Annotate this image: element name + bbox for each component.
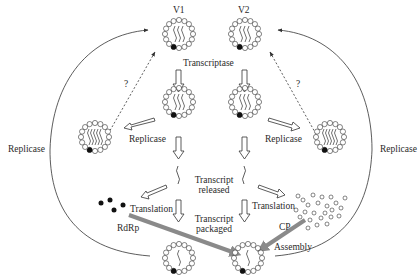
translation-label-left: Translation <box>130 204 173 214</box>
virion-v1-label: V1 <box>173 5 185 15</box>
assembly-label: Assembly <box>274 242 312 252</box>
transcriptase-label: Transcriptase <box>183 58 234 68</box>
question-label-right: ? <box>296 79 300 89</box>
replicase-label-left-outer: Replicase <box>8 144 45 154</box>
released-transcript-right <box>243 166 246 184</box>
virus-lifecycle-diagram <box>0 0 418 278</box>
cp-subunits <box>294 193 347 230</box>
virion-v1 <box>162 17 195 50</box>
question-label-left: ? <box>124 79 128 89</box>
virion-v2-transcribing <box>228 85 261 118</box>
virion-assembled-bottom <box>231 241 264 274</box>
virion-right-replicating <box>313 120 346 153</box>
virion-v1-transcribing <box>162 85 195 118</box>
rdrp-label: RdRp <box>117 223 139 233</box>
replicase-label-left-inner: Replicase <box>129 134 166 144</box>
translation-label-right: Translation <box>252 201 295 211</box>
transcript-packaged-label: Transcript packaged <box>192 214 236 234</box>
replicase-label-right-outer: Replicase <box>380 144 417 154</box>
virion-v2-label: V2 <box>238 5 250 15</box>
replicase-label-right-inner: Replicase <box>265 134 302 144</box>
virion-empty-bottom-left <box>162 241 195 274</box>
hollow-down-arrows <box>173 70 250 222</box>
rdrp-dots <box>99 198 126 213</box>
virion-left-replicating <box>78 120 111 153</box>
released-transcript-left <box>177 166 180 184</box>
transcript-released-label: Transcript released <box>192 175 236 195</box>
cp-label: CP <box>279 222 291 232</box>
virion-v2 <box>228 17 261 50</box>
